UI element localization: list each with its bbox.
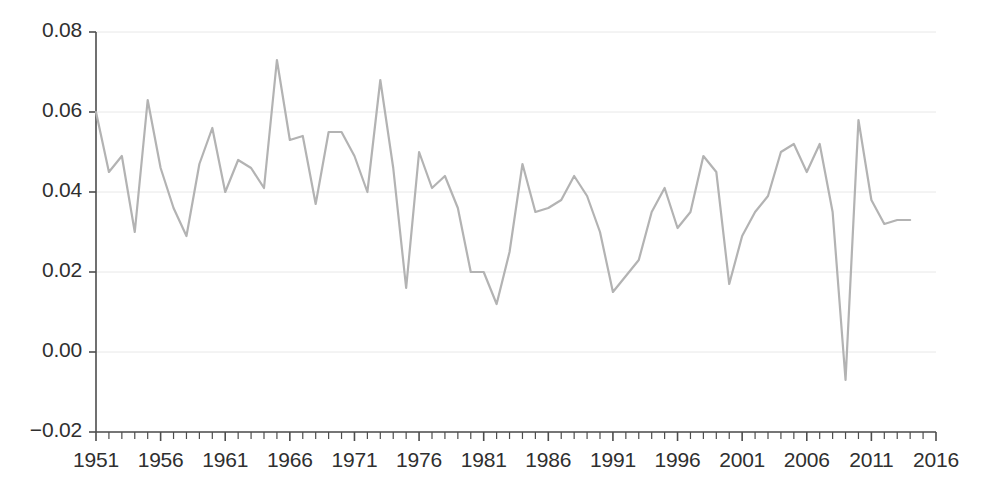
x-tick-label: 1976 [396, 448, 442, 472]
x-tick-label: 2001 [719, 448, 765, 472]
x-tick-label: 1996 [655, 448, 701, 472]
chart-container: −0.020.000.020.040.060.08 19511956196119… [0, 0, 986, 492]
x-tick-label: 2016 [913, 448, 959, 472]
x-tick-label: 1961 [202, 448, 248, 472]
x-tick-label: 1971 [331, 448, 377, 472]
x-tick-label: 1966 [267, 448, 313, 472]
x-tick-label: 1986 [525, 448, 571, 472]
x-tick-label: 1981 [461, 448, 507, 472]
x-axis-tick-labels: 1951195619611966197119761981198619911996… [0, 0, 986, 492]
x-tick-label: 1951 [73, 448, 119, 472]
x-tick-label: 1991 [590, 448, 636, 472]
x-tick-label: 2006 [784, 448, 830, 472]
x-tick-label: 2011 [849, 448, 893, 472]
x-tick-label: 1956 [138, 448, 184, 472]
